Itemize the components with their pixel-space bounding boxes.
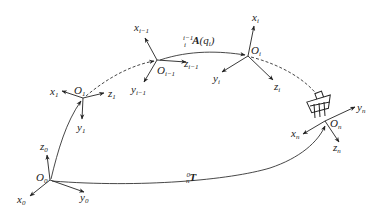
frame-n xyxy=(303,107,355,142)
link-transform-presub: i xyxy=(184,41,186,49)
chain-curves xyxy=(51,52,325,183)
axis-zn-label: zn xyxy=(332,141,341,155)
frame-n-labels: On yn xn zn xyxy=(290,101,366,155)
origin-o1-label: O1 xyxy=(74,84,85,98)
axis-zi xyxy=(248,56,273,80)
total-transform-label: 0nT xyxy=(186,171,198,185)
axis-xi-label: xi xyxy=(251,11,259,25)
link-transform-label: i−1A(qi) xyxy=(183,34,215,48)
axis-y1 xyxy=(82,98,83,119)
axis-yi xyxy=(222,56,248,72)
axis-y0-label: y0 xyxy=(79,191,89,205)
axis-xi-1 xyxy=(145,38,157,60)
axis-zi-label: zi xyxy=(273,80,280,94)
axis-x1-label: x1 xyxy=(49,85,58,99)
origin-oi-label: Oi xyxy=(251,44,261,58)
gripper-icon xyxy=(306,91,331,118)
axis-yi-label: yi xyxy=(212,72,220,86)
axis-xn-label: xn xyxy=(290,127,300,141)
axis-x0-label: x0 xyxy=(16,193,26,207)
axis-xi-1-label: xi−1 xyxy=(133,21,149,35)
axis-z1-label: z1 xyxy=(107,87,116,101)
origin-on-label: On xyxy=(330,117,342,131)
origin-oi-1-label: Oi−1 xyxy=(157,64,175,78)
curve-oi-on xyxy=(251,57,318,96)
axis-yi-1-label: yi−1 xyxy=(130,83,146,97)
axis-y1-label: y1 xyxy=(76,121,85,135)
axis-yi-1 xyxy=(144,60,157,82)
axis-zi-1-label: zi−1 xyxy=(183,57,198,71)
curve-o0-o1 xyxy=(51,101,81,179)
axis-z0-label: z0 xyxy=(39,140,48,154)
axis-zi-1 xyxy=(157,60,186,62)
origin-o0-label: O0 xyxy=(36,171,48,185)
curve-oi-1-oi xyxy=(160,52,245,60)
kinematic-chain-diagram: O0 z0 x0 y0 O1 x1 z1 y1 Oi−1 xi−1 zi−1 y… xyxy=(0,0,382,218)
axis-yn-label: yn xyxy=(356,101,366,115)
